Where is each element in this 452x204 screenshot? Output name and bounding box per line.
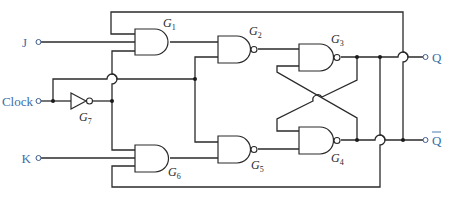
junction-dot bbox=[110, 99, 114, 103]
junction-dot bbox=[401, 138, 405, 142]
junction-dot bbox=[355, 138, 359, 142]
label-g7: G7 bbox=[79, 110, 92, 126]
junction-dot bbox=[51, 99, 55, 103]
gate-g7-not bbox=[71, 93, 93, 109]
terminal-clock bbox=[36, 99, 41, 104]
jk-flip-flop-diagram: G1 G2 G3 G4 G5 G6 G7 J Clock K Q Q bbox=[0, 0, 452, 204]
gate-g2-nand bbox=[218, 36, 257, 63]
label-input-clock: Clock bbox=[2, 94, 34, 109]
junction-dot bbox=[193, 77, 197, 81]
wire-clock-vertical bbox=[195, 57, 218, 142]
wire-inverted-clock bbox=[112, 51, 135, 150]
label-g6: G6 bbox=[168, 165, 181, 181]
terminal-qbar bbox=[423, 138, 428, 143]
label-g4: G4 bbox=[331, 151, 344, 167]
junctions bbox=[51, 55, 405, 142]
label-g5: G5 bbox=[251, 158, 264, 174]
label-output-qbar: Q bbox=[432, 133, 442, 148]
label-input-k: K bbox=[22, 151, 32, 166]
terminal-k bbox=[36, 156, 41, 161]
label-g1: G1 bbox=[163, 16, 176, 32]
wire-qbar-output bbox=[341, 135, 423, 140]
terminal-j bbox=[36, 40, 41, 45]
wire-q-output bbox=[341, 52, 423, 57]
gate-g6-and bbox=[135, 145, 169, 172]
junction-dot bbox=[378, 55, 382, 59]
label-input-j: J bbox=[22, 35, 27, 50]
junction-dot bbox=[355, 55, 359, 59]
label-g2: G2 bbox=[249, 24, 262, 40]
label-g3: G3 bbox=[331, 32, 344, 48]
label-output-q: Q bbox=[432, 50, 442, 65]
gate-g1-and bbox=[135, 29, 168, 55]
terminal-q bbox=[423, 55, 428, 60]
gate-g4-nand bbox=[299, 127, 340, 154]
gate-g3-nand bbox=[299, 44, 340, 71]
